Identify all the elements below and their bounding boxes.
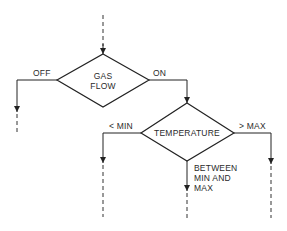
arrow-down-icon [184, 185, 190, 191]
on-connector [149, 80, 187, 103]
on-label: ON [153, 68, 166, 78]
between-label-line1: BETWEEN [194, 163, 237, 173]
gas-flow-label-line2: FLOW [90, 81, 115, 91]
arrow-down-icon [14, 106, 20, 112]
min-connector [103, 133, 141, 163]
off-connector [17, 80, 57, 112]
max-label: > MAX [239, 121, 266, 131]
temperature-label: TEMPERATURE [154, 128, 220, 138]
max-connector [234, 133, 271, 164]
flowchart: GAS FLOW OFF ON TEMPERATURE < MIN > MAX … [0, 0, 287, 231]
arrow-down-icon [184, 97, 190, 103]
min-label: < MIN [109, 121, 133, 131]
off-label: OFF [33, 68, 51, 78]
gas-flow-label-line1: GAS [94, 71, 113, 81]
between-label-line3: MAX [194, 183, 213, 193]
between-label-line2: MIN AND [194, 173, 231, 183]
arrow-down-icon [268, 158, 274, 164]
arrow-down-icon [100, 48, 106, 54]
arrow-down-icon [100, 157, 106, 163]
